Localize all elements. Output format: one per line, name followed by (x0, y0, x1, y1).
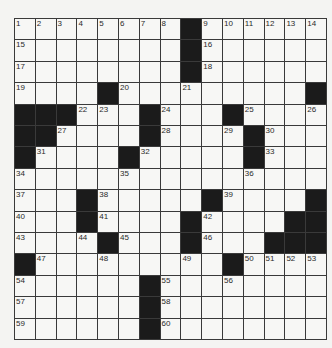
crossword-cell[interactable] (202, 254, 222, 274)
crossword-cell[interactable] (77, 319, 97, 339)
crossword-cell[interactable] (77, 147, 97, 167)
crossword-cell[interactable]: 29 (223, 126, 243, 146)
crossword-cell[interactable] (119, 190, 139, 210)
crossword-cell[interactable] (161, 83, 181, 103)
crossword-cell[interactable] (77, 276, 97, 296)
crossword-cell[interactable]: 19 (15, 83, 35, 103)
crossword-cell[interactable] (244, 62, 264, 82)
crossword-cell[interactable] (202, 105, 222, 125)
crossword-cell[interactable] (285, 169, 305, 189)
crossword-cell[interactable]: 43 (15, 233, 35, 253)
crossword-cell[interactable] (57, 319, 77, 339)
crossword-cell[interactable] (306, 62, 326, 82)
crossword-cell[interactable]: 41 (98, 212, 118, 232)
crossword-cell[interactable] (285, 40, 305, 60)
crossword-cell[interactable] (140, 233, 160, 253)
crossword-cell[interactable] (285, 62, 305, 82)
crossword-cell[interactable]: 23 (98, 105, 118, 125)
crossword-cell[interactable] (57, 233, 77, 253)
crossword-cell[interactable] (77, 126, 97, 146)
crossword-cell[interactable]: 12 (265, 19, 285, 39)
crossword-cell[interactable] (36, 233, 56, 253)
crossword-cell[interactable] (285, 319, 305, 339)
crossword-cell[interactable] (202, 147, 222, 167)
crossword-cell[interactable] (140, 40, 160, 60)
crossword-cell[interactable] (223, 83, 243, 103)
crossword-cell[interactable] (119, 126, 139, 146)
crossword-cell[interactable] (244, 233, 264, 253)
crossword-cell[interactable]: 58 (161, 297, 181, 317)
crossword-cell[interactable] (36, 169, 56, 189)
crossword-cell[interactable] (244, 212, 264, 232)
crossword-cell[interactable] (161, 62, 181, 82)
crossword-cell[interactable] (140, 212, 160, 232)
crossword-cell[interactable] (36, 319, 56, 339)
crossword-cell[interactable] (244, 276, 264, 296)
crossword-cell[interactable] (306, 319, 326, 339)
crossword-cell[interactable]: 1 (15, 19, 35, 39)
crossword-cell[interactable] (140, 190, 160, 210)
crossword-cell[interactable] (119, 254, 139, 274)
crossword-cell[interactable]: 9 (202, 19, 222, 39)
crossword-cell[interactable] (161, 147, 181, 167)
crossword-cell[interactable] (244, 297, 264, 317)
crossword-cell[interactable] (223, 212, 243, 232)
crossword-cell[interactable]: 20 (119, 83, 139, 103)
crossword-cell[interactable] (161, 190, 181, 210)
crossword-cell[interactable] (285, 190, 305, 210)
crossword-cell[interactable] (265, 83, 285, 103)
crossword-cell[interactable] (36, 83, 56, 103)
crossword-cell[interactable]: 8 (161, 19, 181, 39)
crossword-cell[interactable] (119, 105, 139, 125)
crossword-cell[interactable] (57, 276, 77, 296)
crossword-cell[interactable]: 56 (223, 276, 243, 296)
crossword-cell[interactable] (285, 297, 305, 317)
crossword-cell[interactable]: 3 (57, 19, 77, 39)
crossword-cell[interactable] (57, 147, 77, 167)
crossword-cell[interactable]: 47 (36, 254, 56, 274)
crossword-cell[interactable] (265, 40, 285, 60)
crossword-cell[interactable]: 59 (15, 319, 35, 339)
crossword-cell[interactable] (119, 297, 139, 317)
crossword-cell[interactable] (77, 254, 97, 274)
crossword-cell[interactable] (265, 297, 285, 317)
crossword-cell[interactable] (161, 254, 181, 274)
crossword-cell[interactable]: 15 (15, 40, 35, 60)
crossword-cell[interactable] (98, 319, 118, 339)
crossword-cell[interactable] (223, 147, 243, 167)
crossword-cell[interactable] (57, 40, 77, 60)
crossword-cell[interactable] (140, 62, 160, 82)
crossword-cell[interactable] (265, 319, 285, 339)
crossword-cell[interactable] (77, 83, 97, 103)
crossword-cell[interactable]: 28 (161, 126, 181, 146)
crossword-cell[interactable] (306, 276, 326, 296)
crossword-cell[interactable]: 38 (98, 190, 118, 210)
crossword-cell[interactable] (306, 147, 326, 167)
crossword-cell[interactable] (98, 62, 118, 82)
crossword-cell[interactable] (306, 297, 326, 317)
crossword-cell[interactable] (181, 126, 201, 146)
crossword-cell[interactable]: 40 (15, 212, 35, 232)
crossword-cell[interactable] (36, 62, 56, 82)
crossword-cell[interactable] (244, 83, 264, 103)
crossword-cell[interactable]: 6 (119, 19, 139, 39)
crossword-cell[interactable] (202, 83, 222, 103)
crossword-cell[interactable] (98, 276, 118, 296)
crossword-cell[interactable] (98, 297, 118, 317)
crossword-cell[interactable]: 30 (265, 126, 285, 146)
crossword-cell[interactable]: 16 (202, 40, 222, 60)
crossword-cell[interactable] (306, 126, 326, 146)
crossword-cell[interactable] (57, 254, 77, 274)
crossword-cell[interactable] (285, 276, 305, 296)
crossword-cell[interactable] (119, 276, 139, 296)
crossword-cell[interactable] (98, 40, 118, 60)
crossword-cell[interactable] (181, 169, 201, 189)
crossword-cell[interactable]: 33 (265, 147, 285, 167)
crossword-cell[interactable]: 52 (285, 254, 305, 274)
crossword-cell[interactable]: 27 (57, 126, 77, 146)
crossword-cell[interactable] (77, 40, 97, 60)
crossword-cell[interactable] (223, 169, 243, 189)
crossword-cell[interactable]: 25 (244, 105, 264, 125)
crossword-cell[interactable]: 54 (15, 276, 35, 296)
crossword-cell[interactable]: 39 (223, 190, 243, 210)
